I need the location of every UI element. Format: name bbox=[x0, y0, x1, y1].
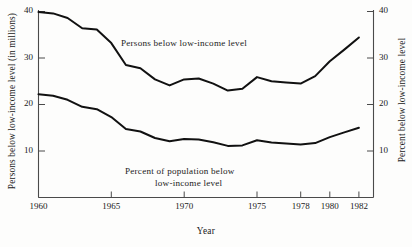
xtick-label-1982: 1982 bbox=[339, 201, 379, 211]
right-axis-ticks bbox=[367, 12, 374, 152]
xtick-label-1975: 1975 bbox=[237, 201, 277, 211]
y-axis-title-left: Persons below low-income level (in milli… bbox=[7, 6, 17, 196]
xtick-label-1970: 1970 bbox=[164, 201, 204, 211]
series-line-percent bbox=[39, 94, 359, 146]
chart-figure: 40 30 20 10 40 30 20 10 1960 1965 1970 1… bbox=[0, 0, 412, 247]
percent-series-annotation-line2: low-income level bbox=[155, 178, 222, 188]
persons-series-annotation: Persons below low-income level bbox=[121, 38, 247, 48]
percent-series-annotation-line1: Percent of population below bbox=[125, 166, 235, 176]
x-axis-title: Year bbox=[0, 226, 412, 236]
series-line-persons bbox=[39, 12, 359, 91]
bottom-axis-ticks bbox=[39, 192, 359, 198]
xtick-label-1960: 1960 bbox=[19, 201, 59, 211]
xtick-label-1965: 1965 bbox=[91, 201, 131, 211]
y-axis-title-right: Percent below low-income level bbox=[397, 10, 407, 190]
left-axis-ticks bbox=[39, 12, 46, 152]
